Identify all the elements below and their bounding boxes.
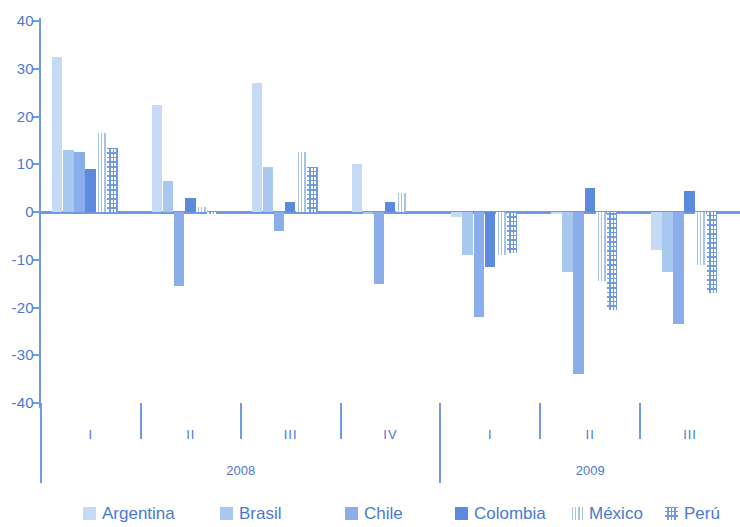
bar-peru-q2 <box>207 212 218 214</box>
legend-swatch-icon <box>220 507 233 520</box>
quarter-label: I <box>440 428 540 441</box>
bar-peru-q6 <box>607 212 618 310</box>
bar-brasil-q1 <box>63 150 74 212</box>
bar-argentina-q2 <box>152 105 163 212</box>
bar-peru-q7 <box>707 212 718 293</box>
bar-argentina-q5 <box>451 212 462 217</box>
bar-peru-q5 <box>507 212 518 253</box>
bar-peru-q1 <box>107 148 118 212</box>
quarter-label: III <box>241 428 341 441</box>
legend-item-brasil[interactable]: Brasil <box>220 505 282 522</box>
legend-label: Colombia <box>474 505 546 522</box>
legend-swatch-icon <box>345 507 358 520</box>
bar-chile-q6 <box>573 212 584 374</box>
legend-label: Argentina <box>102 505 175 522</box>
bar-chile-q4 <box>374 212 385 284</box>
bar-mexico-q1 <box>96 133 107 212</box>
quarter-label: III <box>640 428 740 441</box>
legend-item-peru[interactable]: Perú <box>665 505 720 522</box>
legend-item-chile[interactable]: Chile <box>345 505 403 522</box>
bar-brasil-q7 <box>662 212 673 272</box>
legend-label: Chile <box>364 505 403 522</box>
quarter-label: I <box>41 428 141 441</box>
bar-argentina-q4 <box>352 164 363 212</box>
bar-brasil-q5 <box>462 212 473 255</box>
bar-argentina-q7 <box>651 212 662 250</box>
year-label: 2008 <box>41 464 440 477</box>
bar-mexico-q3 <box>296 152 307 212</box>
legend-label: México <box>589 505 643 522</box>
bar-mexico-q6 <box>596 212 607 281</box>
bar-brasil-q2 <box>163 181 174 212</box>
bar-chile-q7 <box>673 212 684 324</box>
legend-item-mexico[interactable]: México <box>570 505 643 522</box>
legend-item-colombia[interactable]: Colombia <box>455 505 546 522</box>
bar-colombia-q5 <box>485 212 496 267</box>
bar-chile-q2 <box>174 212 185 286</box>
legend-label: Brasil <box>239 505 282 522</box>
legend-label: Perú <box>684 505 720 522</box>
legend-item-argentina[interactable]: Argentina <box>83 505 175 522</box>
bar-colombia-q2 <box>185 198 196 212</box>
legend-swatch-icon <box>455 507 468 520</box>
bar-colombia-q7 <box>684 191 695 212</box>
bar-brasil-q4 <box>363 212 374 214</box>
bar-brasil-q3 <box>263 167 274 212</box>
bar-mexico-q4 <box>396 193 407 212</box>
bar-chile-q5 <box>474 212 485 317</box>
bar-chile-q1 <box>74 152 85 212</box>
bar-peru-q3 <box>307 167 318 212</box>
bar-brasil-q6 <box>562 212 573 272</box>
bar-mexico-q2 <box>196 207 207 212</box>
chart-legend: ArgentinaBrasilChileColombiaMéxicoPerú <box>0 500 740 527</box>
bar-colombia-q3 <box>285 202 296 212</box>
bar-chile-q3 <box>274 212 285 231</box>
year-label: 2009 <box>440 464 740 477</box>
bar-mexico-q5 <box>496 212 507 255</box>
quarter-label: II <box>141 428 241 441</box>
bar-argentina-q6 <box>551 212 562 214</box>
legend-swatch-icon <box>570 507 583 520</box>
x-axis: IIIIIIIVIIIIII20082009 <box>0 403 740 495</box>
legend-swatch-icon <box>83 507 96 520</box>
bar-mexico-q7 <box>695 212 706 265</box>
bar-argentina-q1 <box>52 57 63 212</box>
quarter-label: IV <box>341 428 441 441</box>
quarter-label: II <box>540 428 640 441</box>
bar-colombia-q1 <box>85 169 96 212</box>
legend-swatch-icon <box>665 507 678 520</box>
bar-chart: 403020100-10-20-30-40 IIIIIIIVIIIIII2008… <box>0 0 740 527</box>
bar-colombia-q4 <box>385 202 396 212</box>
bar-colombia-q6 <box>585 188 596 212</box>
bar-argentina-q3 <box>252 83 263 212</box>
